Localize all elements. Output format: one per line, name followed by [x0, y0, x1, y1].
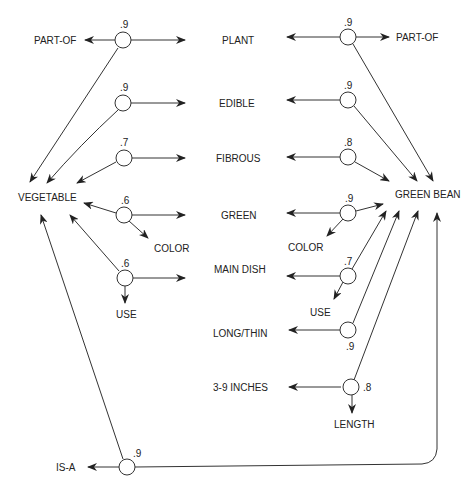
- weight-label: .9: [344, 17, 353, 28]
- weight-label: .6: [121, 195, 130, 206]
- relation-length: LENGTH: [334, 419, 375, 430]
- green-bean-node-main-dish: .7 USE: [287, 211, 386, 318]
- weight-label: .9: [133, 448, 142, 459]
- relation-use: USE: [310, 307, 331, 318]
- green-bean-node-green: .9 COLOR: [287, 193, 383, 253]
- relation-part-of: PART-OF: [396, 32, 438, 43]
- weight-label: .9: [120, 19, 129, 30]
- concept-green-bean: GREEN BEAN: [395, 189, 461, 200]
- isa-node: .9 IS-A: [41, 213, 437, 475]
- attribute-fibrous: FIBROUS: [216, 153, 261, 164]
- relation-color: COLOR: [154, 243, 190, 254]
- vegetable-node-fibrous: .7: [77, 137, 185, 183]
- attribute-edible: EDIBLE: [219, 98, 255, 109]
- green-bean-node-plant: .9 PART-OF: [287, 17, 438, 181]
- green-bean-node-edible: .9: [287, 80, 417, 181]
- weight-label: .9: [345, 193, 354, 204]
- attribute-main-dish: MAIN DISH: [214, 264, 266, 275]
- weight-label: .8: [344, 137, 353, 148]
- weight-label: .9: [120, 82, 129, 93]
- attribute-green: GREEN: [221, 210, 257, 221]
- vegetable-node-green: .6 COLOR: [84, 195, 190, 254]
- vegetable-node-edible: .9: [47, 82, 185, 183]
- semantic-network-diagram: VEGETABLE GREEN BEAN PLANT EDIBLE FIBROU…: [0, 0, 471, 489]
- weight-label: .9: [346, 341, 355, 352]
- weight-label: .8: [363, 382, 372, 393]
- weight-label: .6: [121, 258, 130, 269]
- attribute-long-thin: LONG/THIN: [213, 328, 267, 339]
- attribute-plant: PLANT: [222, 35, 254, 46]
- weight-label: .9: [344, 80, 353, 91]
- vegetable-node-main-dish: .6 USE: [70, 215, 185, 320]
- relation-use: USE: [116, 309, 137, 320]
- concept-vegetable: VEGETABLE: [18, 192, 77, 203]
- relation-is-a: IS-A: [56, 462, 76, 473]
- relation-part-of: PART-OF: [34, 35, 76, 46]
- weight-label: .7: [344, 256, 353, 267]
- attribute-3-9-inches: 3-9 INCHES: [213, 382, 268, 393]
- relation-color: COLOR: [288, 242, 324, 253]
- green-bean-node-fibrous: .8: [287, 137, 389, 181]
- weight-label: .7: [120, 137, 129, 148]
